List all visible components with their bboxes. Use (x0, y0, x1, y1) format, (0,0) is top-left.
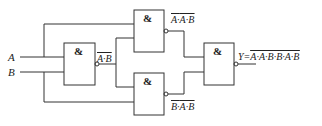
output-y-expression: Y=A·A·B·B·A·B (238, 51, 299, 63)
gate-2-symbol: & (143, 12, 152, 24)
circuit-wires (0, 0, 322, 126)
gate-2-output-label: A·A·B (171, 14, 194, 26)
input-a-label: A (8, 51, 15, 63)
gate-4-symbol: & (213, 45, 222, 57)
input-b-label: B (8, 66, 15, 78)
gate-1-symbol: & (74, 45, 83, 57)
gate-1-output-label: A·B (97, 53, 112, 65)
gate-3-output-label: B·A·B (171, 101, 194, 113)
gate-3-symbol: & (143, 75, 152, 87)
